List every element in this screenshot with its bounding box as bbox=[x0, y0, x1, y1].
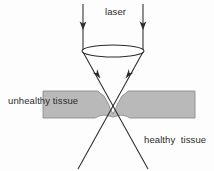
focused-beam-arrowheads bbox=[93, 69, 134, 78]
lens-ellipse bbox=[82, 45, 144, 57]
incoming-beam-arrowheads bbox=[80, 21, 147, 30]
focusing-lens bbox=[82, 45, 144, 57]
label-laser: laser bbox=[105, 7, 126, 17]
label-unhealthy-tissue: unhealthy tissue bbox=[8, 96, 78, 106]
diagram-canvas bbox=[0, 0, 214, 171]
laser-tissue-diagram: laser unhealthy tissue healthy tissue bbox=[0, 0, 214, 171]
label-healthy-tissue: healthy tissue bbox=[144, 135, 206, 145]
